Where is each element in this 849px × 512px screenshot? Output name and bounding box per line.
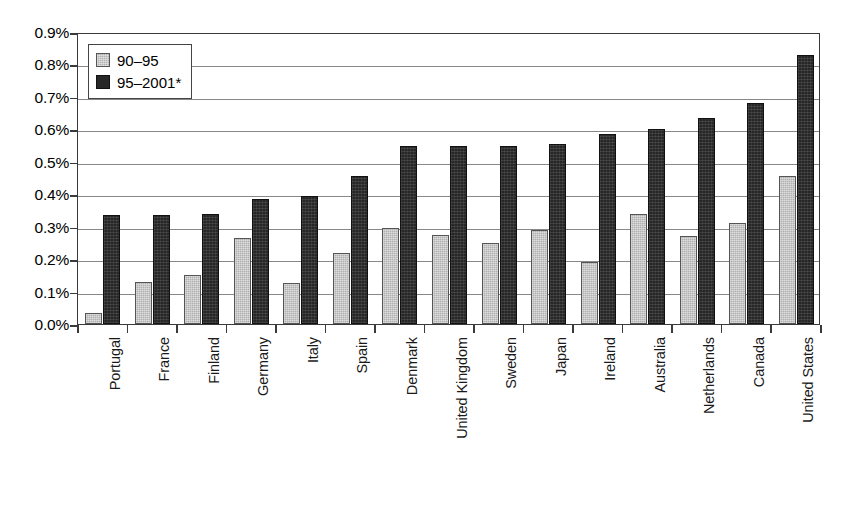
bar-group bbox=[326, 34, 376, 324]
x-tick-mark bbox=[325, 325, 327, 333]
x-tick-mark bbox=[127, 325, 129, 333]
bar-group bbox=[722, 34, 772, 324]
bar bbox=[252, 199, 269, 324]
x-axis-tick-label: Sweden bbox=[504, 337, 519, 389]
y-axis-tick-label: 0.8% bbox=[11, 58, 69, 74]
x-axis-tick-label: Ireland bbox=[603, 337, 618, 381]
x-tick-mark bbox=[572, 325, 574, 333]
bar-group bbox=[573, 34, 623, 324]
legend-item-0: 90–95 bbox=[96, 49, 181, 71]
bar bbox=[698, 118, 715, 324]
bar-group bbox=[375, 34, 425, 324]
y-axis: 0.9%0.8%0.7%0.6%0.5%0.4%0.3%0.2%0.1%0.0% bbox=[9, 0, 69, 512]
bar bbox=[184, 275, 201, 324]
bar bbox=[283, 283, 300, 324]
bar bbox=[599, 134, 616, 324]
y-axis-tick-label: 0.9% bbox=[11, 25, 69, 41]
x-tick-mark bbox=[374, 325, 376, 333]
bar bbox=[234, 238, 251, 324]
y-tick-mark bbox=[70, 65, 77, 67]
x-axis-tick-label: Germany bbox=[256, 337, 271, 396]
bar bbox=[301, 196, 318, 324]
bar-group bbox=[771, 34, 821, 324]
x-tick-mark bbox=[226, 325, 228, 333]
x-tick-mark bbox=[721, 325, 723, 333]
bar bbox=[630, 214, 647, 324]
bar bbox=[549, 144, 566, 324]
y-axis-tick-label: 0.0% bbox=[11, 317, 69, 333]
bar-group bbox=[227, 34, 277, 324]
bar bbox=[500, 146, 517, 324]
bar-group bbox=[425, 34, 475, 324]
bar bbox=[531, 230, 548, 324]
legend-label-1: 95–2001* bbox=[117, 75, 181, 90]
x-tick-mark bbox=[473, 325, 475, 333]
y-tick-mark bbox=[70, 163, 77, 165]
bar bbox=[400, 146, 417, 324]
legend: 90–95 95–2001* bbox=[88, 44, 192, 99]
x-tick-mark bbox=[77, 325, 79, 333]
x-axis-tick-label: Spain bbox=[355, 337, 370, 374]
bar bbox=[482, 243, 499, 324]
x-axis-tick-label: Portugal bbox=[108, 337, 123, 390]
bar bbox=[680, 236, 697, 324]
bar bbox=[135, 282, 152, 324]
y-tick-mark bbox=[70, 130, 77, 132]
bar bbox=[202, 214, 219, 324]
bar bbox=[747, 103, 764, 324]
bar bbox=[103, 215, 120, 324]
x-tick-mark bbox=[424, 325, 426, 333]
bar bbox=[85, 313, 102, 324]
bar bbox=[351, 176, 368, 324]
y-axis-tick-label: 0.1% bbox=[11, 285, 69, 301]
y-tick-mark bbox=[70, 98, 77, 100]
legend-item-1: 95–2001* bbox=[96, 71, 181, 93]
y-tick-mark bbox=[70, 33, 77, 35]
y-tick-mark bbox=[70, 325, 77, 327]
x-tick-mark bbox=[770, 325, 772, 333]
bar-group bbox=[623, 34, 673, 324]
legend-label-0: 90–95 bbox=[117, 53, 159, 68]
x-tick-mark bbox=[671, 325, 673, 333]
bar bbox=[729, 223, 746, 324]
x-axis-tick-label: Australia bbox=[653, 337, 668, 393]
bar-group bbox=[276, 34, 326, 324]
y-tick-mark bbox=[70, 293, 77, 295]
x-axis: PortugalFranceFinlandGermanyItalySpainDe… bbox=[77, 325, 820, 485]
y-axis-tick-label: 0.4% bbox=[11, 187, 69, 203]
bar bbox=[797, 55, 814, 324]
bar bbox=[581, 262, 598, 324]
x-axis-tick-label: United States bbox=[801, 337, 816, 423]
x-axis-tick-label: France bbox=[157, 337, 172, 382]
x-axis-tick-label: Japan bbox=[554, 337, 569, 376]
bar bbox=[432, 235, 449, 324]
y-tick-mark bbox=[70, 195, 77, 197]
bar bbox=[382, 228, 399, 324]
bar-group bbox=[672, 34, 722, 324]
x-axis-tick-label: Finland bbox=[207, 337, 222, 384]
x-tick-mark bbox=[622, 325, 624, 333]
y-axis-tick-label: 0.3% bbox=[11, 220, 69, 236]
bar-group bbox=[524, 34, 574, 324]
bar bbox=[779, 176, 796, 324]
bar bbox=[333, 253, 350, 324]
bar bbox=[153, 215, 170, 324]
legend-swatch-light-icon bbox=[96, 53, 110, 67]
legend-swatch-dark-icon bbox=[96, 75, 110, 89]
bar bbox=[450, 146, 467, 324]
x-tick-mark bbox=[523, 325, 525, 333]
x-axis-tick-label: Canada bbox=[752, 337, 767, 387]
y-tick-mark bbox=[70, 228, 77, 230]
y-axis-tick-label: 0.6% bbox=[11, 123, 69, 139]
x-tick-mark bbox=[820, 325, 822, 333]
y-axis-tick-label: 0.5% bbox=[11, 155, 69, 171]
y-axis-tick-label: 0.7% bbox=[11, 90, 69, 106]
x-tick-mark bbox=[275, 325, 277, 333]
bar-group bbox=[474, 34, 524, 324]
y-tick-mark bbox=[70, 260, 77, 262]
x-axis-tick-label: Netherlands bbox=[702, 337, 717, 414]
y-axis-tick-label: 0.2% bbox=[11, 252, 69, 268]
x-axis-tick-label: Denmark bbox=[405, 337, 420, 395]
x-tick-mark bbox=[176, 325, 178, 333]
x-axis-tick-label: United Kingdom bbox=[455, 337, 470, 439]
